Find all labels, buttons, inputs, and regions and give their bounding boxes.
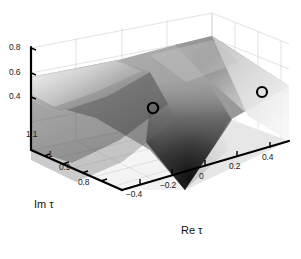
x-tick-4: 0.4	[262, 153, 273, 162]
y-axis-title: Im τ	[34, 199, 54, 210]
x-tick-3: 0.2	[229, 162, 240, 171]
y-tick-0: 1.1	[26, 130, 37, 139]
z-tick-0: 0.8	[9, 43, 20, 52]
x-axis-title: Re τ	[181, 225, 202, 236]
y-tick-1: 1	[48, 150, 53, 159]
y-tick-2: 0.9	[59, 163, 70, 172]
z-tick-2: 0.4	[9, 92, 20, 101]
y-tick-3: 0.8	[78, 178, 89, 187]
z-tick-1: 0.6	[9, 68, 20, 77]
x-tick-0: −0.4	[126, 190, 142, 199]
x-tick-2: 0	[199, 172, 204, 181]
surface-plot-figure: 0.8 0.6 0.4 1.1 1 0.9 0.8 −0.4 −0.2 0 0.…	[0, 0, 301, 259]
x-tick-1: −0.2	[160, 181, 176, 190]
plot-canvas	[0, 0, 301, 259]
